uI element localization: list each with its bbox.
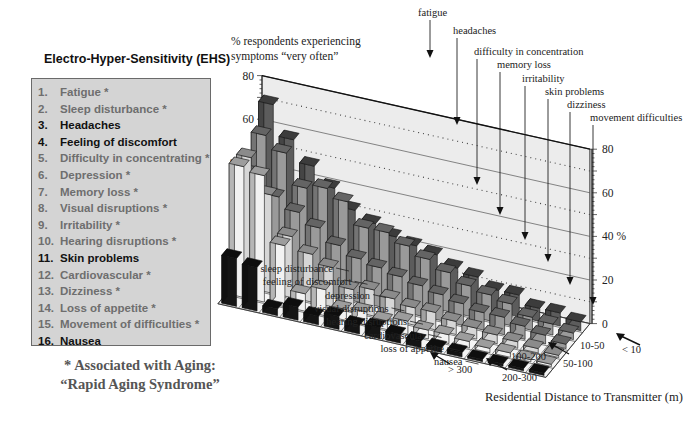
right-axis-label: 40 % [602, 230, 626, 242]
right-axis-label: 0 [602, 318, 608, 330]
symptom-side-label: feeling of discomfort [263, 276, 352, 287]
arrow-down-icon [427, 50, 434, 58]
chart-title-line-1: % respondents experiencing [231, 35, 361, 48]
symptom-top-label: fatigue [418, 7, 447, 18]
left-axis-label: 60 [243, 113, 255, 125]
symptom-top-label: skin problems [545, 86, 604, 97]
symptom-top-label: headaches [453, 25, 496, 36]
right-axis-label: 80 [602, 143, 614, 155]
symptom-side-label: visual disruptions [314, 303, 388, 314]
distance-category-label: 10-50 [580, 340, 605, 351]
symptom-top-label: dizziness [567, 99, 606, 110]
symptom-side-label: hearing disruptions [326, 316, 407, 327]
chart-plot-area: 020% 40608002040 %6080fatigueheadachesdi… [218, 7, 682, 383]
distance-category-label: 50-100 [563, 358, 593, 369]
chart-title-line-2: symptoms “very often” [231, 50, 338, 63]
right-axis-label: 60 [602, 187, 614, 199]
x-axis-label: Residential Distance to Transmitter (m) [485, 390, 683, 404]
symptom-side-label: cardiovascular [364, 330, 426, 341]
symptom-side-label: depression [325, 290, 371, 301]
symptom-top-label: memory loss [497, 59, 551, 70]
distance-category-label: > 300 [448, 364, 472, 375]
distance-category-label: < 10 [622, 344, 641, 355]
distance-category-label: 100-200 [511, 351, 546, 362]
right-axis-label: 20 [602, 274, 614, 286]
symptom-top-label: irritability [522, 73, 565, 84]
distance-category-label: 200-300 [502, 372, 537, 383]
symptom-top-label: difficulty in concentration [474, 46, 584, 57]
3d-bar-chart: % respondents experiencing symptoms “ver… [0, 0, 697, 422]
symptom-top-label: movement difficulties [590, 112, 682, 123]
symptom-side-label: loss of appetite [380, 343, 444, 354]
symptom-side-label: sleep disturbance [260, 263, 333, 274]
bar-side-face [222, 249, 227, 303]
left-axis-label: 80 [243, 70, 255, 82]
